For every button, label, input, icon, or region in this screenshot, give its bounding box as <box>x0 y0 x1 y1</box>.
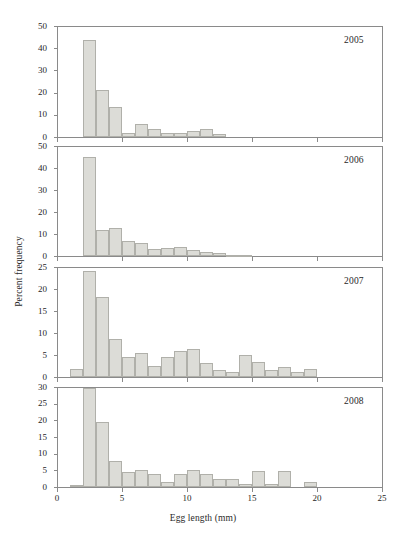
x-axis-title: Egg length (mm) <box>0 513 406 523</box>
histogram-bar <box>122 472 135 487</box>
histogram-bar <box>239 484 252 487</box>
histogram-bar <box>96 422 109 487</box>
histogram-bar <box>161 482 174 487</box>
y-tick-label: 30 <box>21 383 47 392</box>
y-tick-label: 10 <box>21 449 47 458</box>
x-tick-label: 15 <box>242 494 262 503</box>
x-tick-mark <box>187 488 188 492</box>
panel-2008: 05101520253005101520252008 <box>0 0 406 543</box>
x-tick-mark <box>57 488 58 492</box>
x-tick-label: 5 <box>112 494 132 503</box>
histogram-bar <box>70 485 83 487</box>
x-axis-line <box>57 487 383 488</box>
x-tick-mark <box>317 488 318 492</box>
y-tick-mark <box>54 454 57 455</box>
histogram-bar <box>252 471 265 487</box>
y-tick-label: 20 <box>21 416 47 425</box>
histogram-bar <box>83 388 96 487</box>
histogram-bar <box>213 479 226 487</box>
y-tick-label: 15 <box>21 433 47 442</box>
panel-year-label: 2008 <box>344 396 364 406</box>
y-tick-label: 25 <box>21 399 47 408</box>
x-tick-mark <box>252 488 253 492</box>
x-tick-label: 0 <box>47 494 67 503</box>
y-tick-mark <box>54 404 57 405</box>
y-tick-mark <box>54 387 57 388</box>
histogram-bar <box>200 474 213 487</box>
histogram-bar <box>226 479 239 487</box>
y-tick-mark <box>54 420 57 421</box>
y-tick-label: 5 <box>21 466 47 475</box>
figure-container: Percent frequency 0102030405020050102030… <box>0 0 406 543</box>
x-tick-label: 10 <box>177 494 197 503</box>
histogram-bar <box>265 484 278 487</box>
histogram-bar <box>135 470 148 487</box>
histogram-bar <box>148 474 161 487</box>
histogram-bar <box>278 471 291 487</box>
histogram-bar <box>304 482 317 487</box>
x-tick-label: 20 <box>307 494 327 503</box>
y-tick-label: 0 <box>21 483 47 492</box>
y-tick-mark <box>54 437 57 438</box>
histogram-bar <box>174 474 187 487</box>
x-tick-mark <box>382 488 383 492</box>
x-tick-mark <box>122 488 123 492</box>
histogram-bar <box>187 470 200 487</box>
y-tick-mark <box>54 470 57 471</box>
histogram-bar <box>109 461 122 487</box>
x-tick-label: 25 <box>372 494 392 503</box>
